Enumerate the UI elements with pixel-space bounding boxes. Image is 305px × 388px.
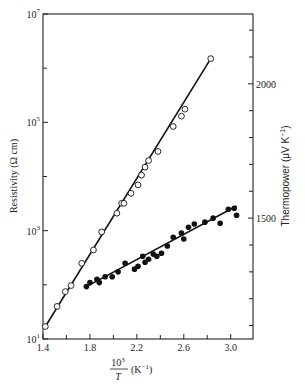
y-left-tick-label: 107 <box>27 7 41 20</box>
filled-circle-marker <box>202 219 208 225</box>
open-circle-marker <box>54 303 60 309</box>
filled-circle-marker <box>115 269 121 275</box>
resistivity-series <box>42 56 213 330</box>
thermopower-series <box>84 205 240 289</box>
x-tick-label: 1.8 <box>84 342 97 353</box>
open-circle-marker <box>139 172 145 178</box>
filled-circle-marker <box>140 253 146 259</box>
filled-circle-marker <box>87 280 93 286</box>
x-title-numerator-base: 10 <box>111 357 121 368</box>
open-circle-marker <box>128 190 134 196</box>
filled-circle-marker <box>217 220 223 226</box>
open-circle-marker <box>121 200 127 206</box>
y-right-tick-label: 1500 <box>256 213 276 224</box>
y-right-axis-title: Thermopower (μV K−1) <box>279 125 291 226</box>
open-circle-marker <box>68 283 74 289</box>
y-right-axis-title-end: ) <box>280 125 291 128</box>
x-tick-label: 3.0 <box>224 342 237 353</box>
open-circle-marker <box>114 210 120 216</box>
filled-circle-marker <box>181 236 187 242</box>
x-tick-label: 1.4 <box>37 342 50 353</box>
filled-circle-marker <box>186 224 192 230</box>
filled-circle-marker <box>97 280 103 286</box>
y-axis-left-resistivity: 101103105107 <box>27 7 49 345</box>
filled-circle-marker <box>146 256 152 262</box>
y-right-tick-label: 2000 <box>256 79 276 90</box>
open-circle-marker <box>79 260 85 266</box>
plot-border <box>43 14 253 339</box>
resistivity-thermopower-chart: 1.41.82.22.63.0 101103105107 15002000 Re… <box>0 0 305 388</box>
x-axis: 1.41.82.22.63.0 <box>37 334 237 353</box>
filled-circle-marker <box>231 205 237 211</box>
filled-circle-marker <box>122 260 128 266</box>
x-title-unit-end: ) <box>149 364 152 376</box>
open-circle-marker <box>146 158 152 164</box>
filled-circle-marker <box>102 274 108 280</box>
filled-circle-marker <box>234 212 240 218</box>
x-title-numerator: 103 <box>111 356 125 368</box>
filled-circle-marker <box>210 215 216 221</box>
open-circle-marker <box>208 56 214 62</box>
x-title-numerator-sup: 3 <box>121 356 125 364</box>
open-circle-marker <box>170 124 176 130</box>
filled-circle-marker <box>165 243 171 249</box>
x-title-unit: (K−1) <box>131 363 152 376</box>
x-tick-label: 2.2 <box>131 342 144 353</box>
open-circle-marker <box>42 324 48 330</box>
y-left-axis-title: Resistivity (Ω cm) <box>8 139 20 213</box>
plot-frame <box>43 14 253 339</box>
y-left-tick-label: 103 <box>27 224 41 237</box>
data-series <box>42 56 239 330</box>
open-circle-marker <box>142 164 148 170</box>
filled-circle-marker <box>109 274 115 280</box>
filled-circle-marker <box>226 206 232 212</box>
y-right-axis-title-sup: −1 <box>279 129 286 137</box>
filled-circle-marker <box>192 221 198 227</box>
y-right-axis-title-main: Thermopower (μV K <box>280 137 291 227</box>
open-circle-marker <box>62 289 68 295</box>
open-circle-marker <box>99 229 105 235</box>
filled-circle-marker <box>170 234 176 240</box>
x-title-denominator: T <box>115 371 122 382</box>
x-axis-title: 103 T (K−1) <box>110 356 152 382</box>
y-left-tick-label: 105 <box>27 115 41 128</box>
open-circle-marker <box>135 182 141 188</box>
filled-circle-marker <box>179 230 185 236</box>
x-tick-label: 2.6 <box>178 342 191 353</box>
filled-circle-marker <box>154 253 160 259</box>
open-circle-marker <box>91 247 97 253</box>
y-axis-right-thermopower: 15002000 <box>248 30 276 325</box>
open-circle-marker <box>179 113 185 119</box>
filled-circle-marker <box>135 263 141 269</box>
open-circle-marker <box>182 106 188 112</box>
open-circle-marker <box>155 149 161 155</box>
filled-circle-marker <box>159 251 165 257</box>
